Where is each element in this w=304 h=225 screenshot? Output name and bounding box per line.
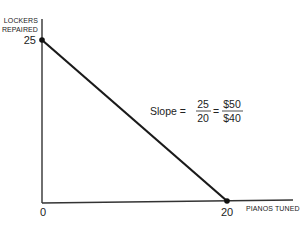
- chart: LOCKERS REPAIRED 25 0 20 PIANOS TUNED Sl…: [0, 0, 304, 225]
- slope-prefix: Slope =: [150, 105, 186, 117]
- point-x-intercept: [224, 198, 230, 204]
- x-tick-0: 0: [40, 206, 46, 218]
- x-tick-20: 20: [221, 206, 233, 218]
- slope-equals: =: [213, 105, 219, 117]
- x-axis: [42, 200, 293, 203]
- y-tick-25: 25: [24, 34, 36, 46]
- frac1-numerator: 25: [197, 98, 209, 110]
- slope-annotation: Slope = 25 20 = $50 $40: [150, 98, 243, 124]
- y-axis-label-line1: LOCKERS: [4, 17, 38, 24]
- y-axis-label-line2: REPAIRED: [2, 26, 38, 33]
- frac1-denominator: 20: [197, 112, 209, 124]
- x-axis-label: PIANOS TUNED: [246, 205, 300, 212]
- point-y-intercept: [39, 37, 45, 43]
- frac2-denominator: $40: [223, 112, 241, 124]
- frac2-numerator: $50: [223, 98, 241, 110]
